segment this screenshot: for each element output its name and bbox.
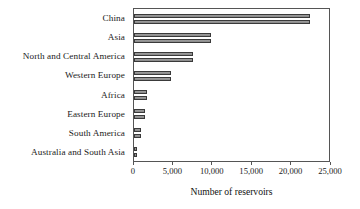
- bar-group: [134, 9, 329, 28]
- x-tick-mark: [290, 162, 291, 165]
- x-tick-mark: [211, 162, 212, 165]
- bar-group: [134, 47, 329, 66]
- x-tick-mark: [133, 162, 134, 165]
- bar-series-container: [134, 9, 329, 161]
- y-tick-label-asia: Asia: [108, 32, 129, 42]
- x-tick-label: 25,000: [318, 166, 342, 176]
- bar-group: [134, 104, 329, 123]
- y-tick-label-western-europe: Western Europe: [65, 70, 129, 80]
- bar-group: [134, 142, 329, 161]
- bar: [134, 147, 137, 151]
- y-axis-category-labels: China Asia North and Central America Wes…: [0, 8, 129, 162]
- x-tick-label: 15,000: [239, 166, 263, 176]
- y-tick-label-north-and-central-america: North and Central America: [23, 51, 129, 61]
- y-tick-label-china: China: [103, 13, 129, 23]
- bar: [134, 14, 310, 18]
- bar: [134, 90, 147, 94]
- x-axis-title: Number of reservoirs: [133, 186, 330, 198]
- bar: [134, 96, 147, 100]
- y-tick-label-africa: Africa: [101, 90, 129, 100]
- bar: [134, 20, 310, 24]
- y-tick-label-south-america: South America: [69, 128, 129, 138]
- bar: [134, 77, 171, 81]
- bar: [134, 71, 171, 75]
- x-tick-mark: [172, 162, 173, 165]
- bar: [134, 58, 193, 62]
- bar-group: [134, 28, 329, 47]
- x-axis: 05,00010,00015,00020,00025,000: [133, 162, 330, 184]
- x-tick-mark: [330, 162, 331, 165]
- bar: [134, 52, 193, 56]
- plot-area: [133, 8, 330, 162]
- x-tick-label: 20,000: [279, 166, 303, 176]
- bar: [134, 115, 145, 119]
- bar-group: [134, 123, 329, 142]
- bar: [134, 134, 141, 138]
- bar-group: [134, 85, 329, 104]
- bar-group: [134, 66, 329, 85]
- bar: [134, 39, 211, 43]
- y-tick-label-eastern-europe: Eastern Europe: [67, 109, 129, 119]
- bar: [134, 153, 137, 157]
- bar: [134, 33, 211, 37]
- x-tick-mark: [251, 162, 252, 165]
- x-tick-label: 10,000: [200, 166, 224, 176]
- bar: [134, 109, 145, 113]
- y-tick-label-australia-and-south-asia: Australia and South Asia: [31, 147, 129, 157]
- x-tick-label: 0: [131, 166, 135, 176]
- reservoir-bar-chart: China Asia North and Central America Wes…: [0, 0, 360, 209]
- x-tick-label: 5,000: [163, 166, 182, 176]
- bar: [134, 128, 141, 132]
